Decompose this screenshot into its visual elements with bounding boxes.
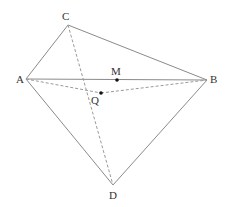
- label-C: C: [62, 10, 69, 22]
- geometry-diagram: A B C D M Q: [0, 0, 228, 207]
- segment-CB: [68, 25, 207, 80]
- segment-QB-dashed: [101, 80, 207, 93]
- label-M: M: [111, 65, 121, 77]
- label-Q: Q: [91, 94, 99, 106]
- point-M: [115, 78, 119, 82]
- segment-AD: [26, 79, 113, 185]
- segment-AQ-dashed: [26, 79, 101, 93]
- label-D: D: [109, 189, 117, 201]
- label-B: B: [210, 73, 217, 85]
- segment-BD: [113, 80, 207, 185]
- label-A: A: [16, 73, 24, 85]
- segment-AC: [26, 25, 68, 79]
- diagram-svg: A B C D M Q: [0, 0, 228, 207]
- point-Q: [99, 91, 103, 95]
